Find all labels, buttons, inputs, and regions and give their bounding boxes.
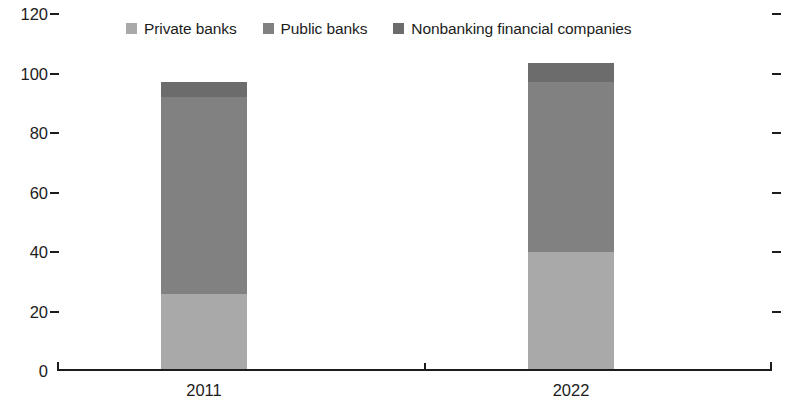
chart-container: Private banks Public banks Nonbanking fi… bbox=[0, 0, 806, 409]
y-axis-tick-left-100 bbox=[50, 73, 59, 75]
y-axis-tick-left-120 bbox=[50, 13, 59, 15]
y-axis-tick-right-20 bbox=[772, 311, 781, 313]
y-axis-tick-right-60 bbox=[772, 192, 781, 194]
y-axis-label-120: 120 bbox=[20, 6, 48, 23]
bar-2011[interactable] bbox=[161, 82, 247, 371]
y-axis-label-40: 40 bbox=[30, 244, 48, 261]
x-axis-line bbox=[57, 369, 772, 371]
y-axis-left-stub bbox=[57, 362, 59, 371]
y-axis-tick-left-80 bbox=[50, 132, 59, 134]
x-axis-label-2011: 2011 bbox=[186, 382, 221, 399]
bar-segment-2022-public-banks[interactable] bbox=[528, 82, 614, 252]
y-axis-label-100: 100 bbox=[20, 65, 48, 82]
y-axis-label-20: 20 bbox=[30, 303, 48, 320]
y-axis-tick-right-100 bbox=[772, 73, 781, 75]
bar-segment-2022-nonbanking-financial-companies[interactable] bbox=[528, 63, 614, 82]
y-axis-tick-left-60 bbox=[50, 192, 59, 194]
bar-2022[interactable] bbox=[528, 63, 614, 371]
bar-segment-2011-public-banks[interactable] bbox=[161, 97, 247, 293]
y-axis-tick-right-40 bbox=[772, 251, 781, 253]
plot-area: 020406080100120 20112022 bbox=[57, 14, 772, 371]
y-axis-tick-left-40 bbox=[50, 251, 59, 253]
bar-segment-2011-nonbanking-financial-companies[interactable] bbox=[161, 82, 247, 97]
y-axis-tick-right-80 bbox=[772, 132, 781, 134]
bar-segment-2022-private-banks[interactable] bbox=[528, 252, 614, 371]
x-axis-label-2022: 2022 bbox=[553, 382, 590, 399]
y-axis-label-60: 60 bbox=[30, 184, 48, 201]
y-axis-label-80: 80 bbox=[30, 125, 48, 142]
y-axis-right-stub bbox=[770, 362, 772, 371]
y-axis-tick-left-20 bbox=[50, 311, 59, 313]
y-axis-label-0: 0 bbox=[39, 363, 48, 380]
y-axis-tick-right-120 bbox=[772, 13, 781, 15]
bar-segment-2011-private-banks[interactable] bbox=[161, 294, 247, 371]
